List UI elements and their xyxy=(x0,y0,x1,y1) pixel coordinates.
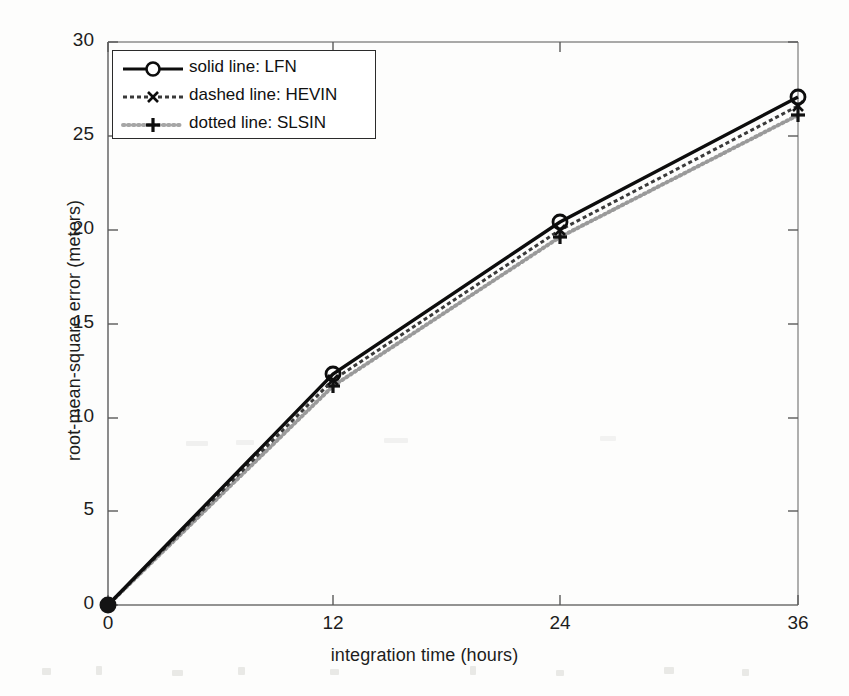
scan-artifact xyxy=(600,436,616,441)
scan-artifact xyxy=(384,438,408,443)
x-axis-title: integration time (hours) xyxy=(0,645,849,666)
legend-entry-hevin: dashed line: HEVIN xyxy=(113,83,375,111)
legend-entry-lfn: solid line: LFN xyxy=(113,55,375,83)
y-axis-title: root-mean-square error (meters) xyxy=(64,200,85,461)
scan-artifact xyxy=(238,667,245,675)
circle-marker-icon xyxy=(121,55,185,83)
scan-artifact xyxy=(330,669,339,675)
legend-label-lfn: solid line: LFN xyxy=(189,57,297,77)
y-axis-title-wrap: root-mean-square error (meters) xyxy=(64,41,85,621)
scan-artifact xyxy=(42,668,51,675)
legend-entry-slsin: dotted line: SLSIN xyxy=(113,111,375,139)
x-tick-label-24: 24 xyxy=(530,612,590,634)
scan-artifact xyxy=(236,440,254,445)
plus-marker-icon xyxy=(121,111,185,139)
legend-label-slsin: dotted line: SLSIN xyxy=(189,113,326,133)
scan-artifact xyxy=(470,666,476,675)
x-tick-label-12: 12 xyxy=(303,612,363,634)
legend-label-hevin: dashed line: HEVIN xyxy=(189,85,337,105)
scan-artifact xyxy=(664,667,674,674)
x-tick-label-0: 0 xyxy=(78,612,138,634)
scan-artifact xyxy=(96,666,102,675)
x-marker-icon xyxy=(121,83,185,111)
series-hevin xyxy=(108,101,803,605)
scan-artifact xyxy=(186,441,208,446)
series-lfn xyxy=(101,90,806,613)
series-slsin xyxy=(108,108,805,605)
scan-artifact xyxy=(172,670,183,676)
figure-canvas: 30 25 20 15 10 5 0 0 12 24 36 integratio… xyxy=(0,0,849,696)
scan-artifact xyxy=(742,669,749,676)
legend: solid line: LFN dashed line: HEVIN dotte… xyxy=(112,50,376,139)
x-tick-label-36: 36 xyxy=(768,612,828,634)
scan-artifact xyxy=(556,670,564,676)
